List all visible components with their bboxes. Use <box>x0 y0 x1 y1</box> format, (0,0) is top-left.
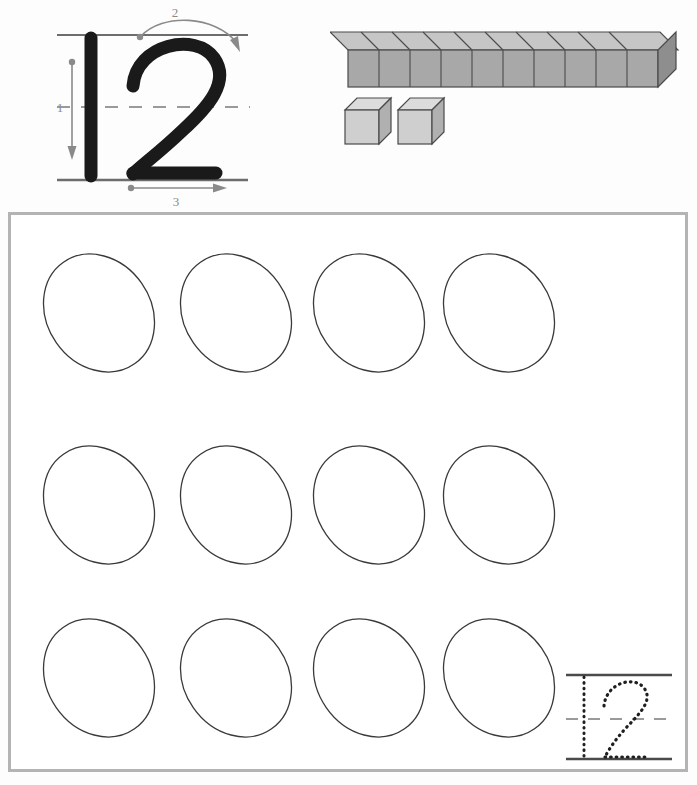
trace-box-svg <box>562 663 677 763</box>
egg-shape[interactable] <box>291 232 447 393</box>
stroke-3-arrow <box>128 184 227 193</box>
egg-shape[interactable] <box>158 597 314 758</box>
stroke-guide-svg: 1 2 3 <box>0 0 350 210</box>
egg-shape[interactable] <box>291 424 447 585</box>
stroke-1-arrow <box>68 59 77 160</box>
number-trace-box[interactable] <box>562 663 677 763</box>
egg-shape[interactable] <box>21 597 177 758</box>
egg-shape[interactable] <box>21 232 177 393</box>
egg-shape[interactable] <box>291 597 447 758</box>
base-ten-block-model <box>330 18 690 153</box>
stroke-3-label: 3 <box>173 194 180 209</box>
stroke-2-label: 2 <box>172 5 179 20</box>
ten-rod-icon <box>330 32 678 87</box>
worksheet-header: 1 2 3 <box>0 0 697 210</box>
egg-shape[interactable] <box>158 424 314 585</box>
block-model-svg <box>330 18 690 153</box>
egg-shape[interactable] <box>21 424 177 585</box>
egg-shape[interactable] <box>421 597 577 758</box>
egg-shape[interactable] <box>421 232 577 393</box>
unit-cube-icon <box>398 98 444 144</box>
egg-shape[interactable] <box>158 232 314 393</box>
practice-panel <box>8 212 688 772</box>
egg-shape[interactable] <box>421 424 577 585</box>
unit-cube-icon <box>345 98 391 144</box>
digit-two-glyph <box>133 44 220 174</box>
stroke-order-guide: 1 2 3 <box>0 0 350 210</box>
stroke-1-label: 1 <box>57 100 64 115</box>
